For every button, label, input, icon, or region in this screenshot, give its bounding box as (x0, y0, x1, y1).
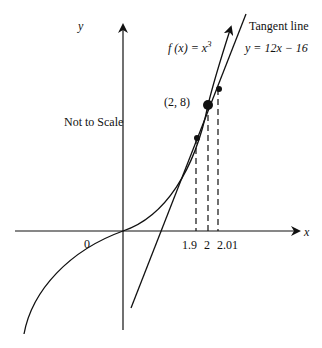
point-label: (2, 8) (164, 95, 190, 109)
tick-label-2-01: 2.01 (217, 238, 238, 252)
not-to-scale-note: Not to Scale (64, 115, 123, 129)
tangent-line (131, 14, 246, 308)
tick-label-2: 2 (204, 238, 210, 252)
tangent-equation: y = 12x − 16 (244, 41, 308, 55)
y-axis-label: y (77, 19, 84, 33)
point-2-01 (216, 86, 222, 92)
point-2-8 (203, 100, 213, 110)
origin-label: 0 (84, 237, 90, 251)
diagram-canvas: y x 0 f (x) = x3 Tangent line y = 12x − … (0, 0, 322, 348)
tangent-title: Tangent line (249, 19, 308, 33)
x-axis-label: x (303, 225, 310, 239)
tangent-line-diagram: y x 0 f (x) = x3 Tangent line y = 12x − … (0, 0, 322, 348)
tick-label-1-9: 1.9 (182, 238, 197, 252)
cubic-curve (24, 30, 230, 334)
point-1-9 (194, 135, 200, 141)
function-label: f (x) = x3 (168, 39, 212, 55)
